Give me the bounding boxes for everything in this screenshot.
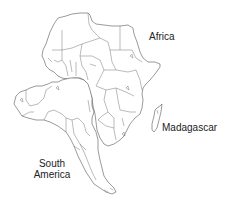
south-america-label: South America <box>32 158 72 180</box>
madagascar-label: Madagascar <box>162 122 217 133</box>
south-america-label-line1: South <box>32 158 72 169</box>
madagascar-outline <box>152 104 162 132</box>
south-america-label-line2: America <box>32 169 72 180</box>
map-container: Africa Madagascar South America <box>0 0 230 206</box>
africa-label: Africa <box>149 31 175 42</box>
